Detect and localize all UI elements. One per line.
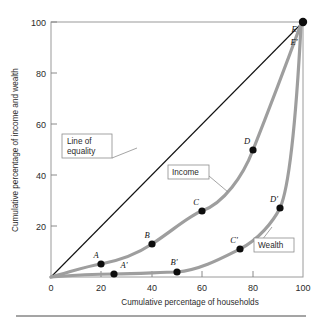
income-callout-leader [209,176,228,192]
chart-canvas: 100 80 60 40 20 0 20 40 60 80 100 Cumula… [0,0,322,322]
data-point-D [249,146,256,153]
data-point-C [198,207,205,214]
wealth-callout-label: Wealth [258,241,284,250]
y-tick-label-20: 20 [36,222,46,232]
data-point-label-D: D [243,136,251,146]
x-tick-label-60: 60 [197,283,207,293]
data-point-C-prime [236,245,243,252]
data-point-B-prime [173,268,180,275]
data-point-label-E: E [290,24,297,34]
y-tick-label-40: 40 [36,171,46,181]
x-tick-label-20: 20 [96,283,106,293]
data-point-E [299,18,307,26]
data-point-label-A-prime: A' [119,260,127,270]
data-point-label-A: A [92,250,99,260]
y-axis-ticks [51,22,57,226]
data-point-label-B-prime: B' [170,257,177,267]
x-tick-label-100: 100 [295,283,310,293]
data-point-label-D-prime: D' [269,194,278,204]
data-point-label-C: C [193,197,199,207]
x-tick-label-40: 40 [147,283,157,293]
data-point-A [97,260,104,267]
x-tick-label-0: 0 [48,283,53,293]
y-tick-label-60: 60 [36,120,46,130]
line-of-equality-callout-line1: Line of [67,137,92,146]
y-tick-label-100: 100 [31,18,46,28]
income-callout-label: Income [172,168,199,177]
lorenz-curve-figure: 100 80 60 40 20 0 20 40 60 80 100 Cumula… [0,0,322,322]
line-of-equality-callout-line2: equality [67,147,96,156]
y-axis-title: Cumulative percentage of income and weal… [11,68,20,232]
data-point-B [148,240,155,247]
line-of-equality-leader [112,148,137,158]
data-point-D-prime [276,204,283,211]
data-point-A-prime [110,270,117,277]
data-point-label-E-prime: E' [289,37,297,47]
x-tick-label-80: 80 [248,283,258,293]
data-point-label-C-prime: C' [230,235,238,245]
y-tick-label-80: 80 [36,69,46,79]
data-point-label-B: B [144,230,149,240]
x-axis-title: Cumulative percentage of households [121,298,258,307]
